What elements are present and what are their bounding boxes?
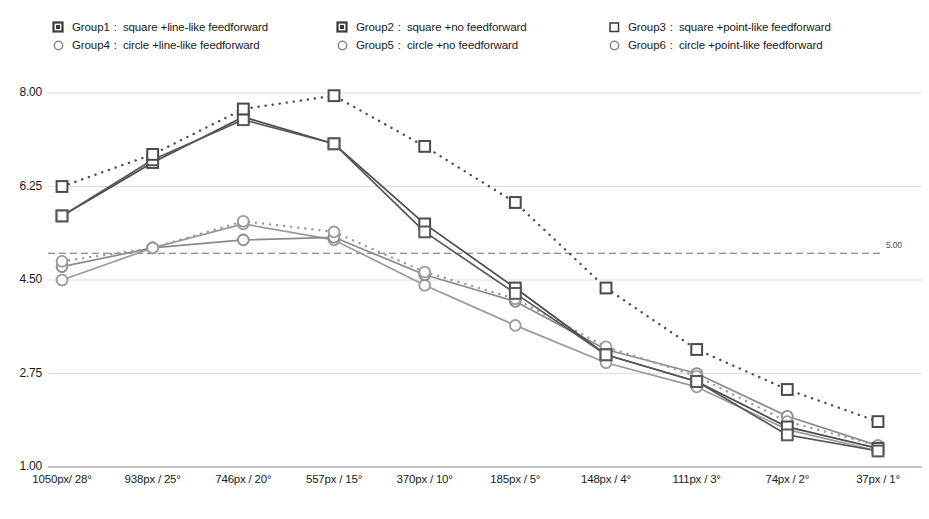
data-point-marker [510, 197, 521, 208]
series-group3 [57, 90, 884, 427]
legend-series-name: Group3 [628, 20, 666, 34]
data-point-marker [691, 376, 702, 387]
data-point-marker [419, 267, 430, 278]
legend-series-description: square +no feedforward [407, 20, 527, 34]
data-point-marker [147, 243, 158, 254]
legend-separator: : [398, 20, 401, 34]
series-group2 [57, 114, 884, 456]
data-point-marker [329, 90, 340, 101]
legend-row: Group1:square +line-like feedforwardGrou… [52, 20, 912, 34]
square-filled-outline-marker [336, 21, 349, 34]
data-point-marker [782, 384, 793, 395]
series-group4 [57, 219, 884, 457]
data-point-marker [510, 320, 521, 331]
legend-series-description: square +line-like feedforward [123, 20, 268, 34]
x-axis-tick-label: 37px / 1° [823, 473, 929, 485]
line-chart: 1.002.754.506.258.00 1050px/ 28°938px / … [0, 0, 929, 519]
data-point-marker [238, 104, 249, 115]
legend-series-name: Group1 [72, 20, 110, 34]
data-point-marker [873, 416, 884, 427]
data-point-marker [329, 138, 340, 149]
legend-separator: : [114, 20, 117, 34]
legend-item-group4[interactable]: Group4:circle +line-like feedforward [52, 38, 336, 52]
data-point-marker [419, 280, 430, 291]
legend-item-group2[interactable]: Group2:square +no feedforward [336, 20, 608, 34]
circle-open-marker [608, 39, 621, 52]
legend-separator: : [670, 38, 673, 52]
data-point-marker [238, 235, 249, 246]
legend-series-description: square +point-like feedforward [679, 20, 831, 34]
data-point-marker [601, 349, 612, 360]
legend-item-group6[interactable]: Group6:circle +point-like feedforward [608, 38, 908, 52]
circle-open-marker [336, 39, 349, 52]
reference-line-label: 5.00 [886, 240, 902, 250]
series-line [62, 96, 878, 422]
legend-separator: : [398, 38, 401, 52]
plot-canvas [0, 0, 929, 519]
chart-legend: Group1:square +line-like feedforwardGrou… [52, 20, 912, 52]
series-line [62, 117, 878, 448]
data-point-marker [57, 275, 68, 286]
data-point-marker [601, 283, 612, 294]
data-point-marker [238, 114, 249, 125]
y-axis-tick-label: 8.00 [2, 85, 42, 99]
data-point-marker [691, 344, 702, 355]
square-filled-outline-marker [52, 21, 65, 34]
data-point-marker [329, 227, 340, 238]
legend-series-description: circle +line-like feedforward [123, 38, 260, 52]
legend-separator: : [114, 38, 117, 52]
legend-series-name: Group2 [356, 20, 394, 34]
y-axis-tick-label: 4.50 [2, 272, 42, 286]
legend-item-group5[interactable]: Group5:circle +no feedforward [336, 38, 608, 52]
legend-item-group1[interactable]: Group1:square +line-like feedforward [52, 20, 336, 34]
legend-separator: : [670, 20, 673, 34]
y-axis-tick-label: 1.00 [2, 459, 42, 473]
data-point-marker [873, 446, 884, 457]
circle-open-marker [52, 39, 65, 52]
y-axis-tick-label: 6.25 [2, 179, 42, 193]
data-point-marker [57, 211, 68, 222]
legend-series-description: circle +no feedforward [407, 38, 518, 52]
legend-series-name: Group6 [628, 38, 666, 52]
data-point-marker [419, 227, 430, 238]
square-open-marker [608, 21, 621, 34]
data-point-marker [238, 216, 249, 227]
legend-item-group3[interactable]: Group3:square +point-like feedforward [608, 20, 908, 34]
data-point-marker [57, 181, 68, 192]
data-point-marker [510, 288, 521, 299]
data-point-marker [782, 430, 793, 441]
legend-series-description: circle +point-like feedforward [679, 38, 823, 52]
legend-series-name: Group4 [72, 38, 110, 52]
legend-row: Group4:circle +line-like feedforwardGrou… [52, 38, 912, 52]
data-point-marker [419, 141, 430, 152]
data-point-marker [147, 149, 158, 160]
data-point-marker [57, 256, 68, 267]
legend-series-name: Group5 [356, 38, 394, 52]
y-axis-tick-label: 2.75 [2, 366, 42, 380]
